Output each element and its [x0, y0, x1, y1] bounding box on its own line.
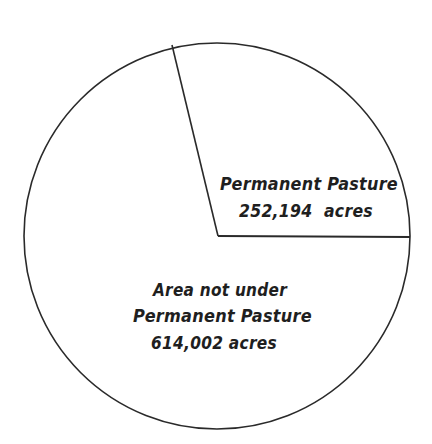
- pie-chart: Permanent Pasture 252,194 acres Area not…: [0, 0, 432, 444]
- slice-label-line: Permanent Pasture: [220, 174, 398, 194]
- pie-chart-svg: Permanent Pasture 252,194 acres Area not…: [0, 0, 432, 444]
- slice-value-line: 614,002 acres: [151, 332, 277, 353]
- slice-label-not-permanent-pasture: Area not under Permanent Pasture 614,002…: [133, 279, 312, 353]
- slice-label-permanent-pasture: Permanent Pasture 252,194 acres: [220, 174, 398, 221]
- slice-value-line: 252,194 acres: [239, 201, 373, 221]
- slice-label-line: Permanent Pasture: [133, 305, 312, 326]
- slice-label-line: Area not under: [151, 279, 287, 300]
- slice-divider-top: [172, 45, 218, 236]
- slice-divider-right: [218, 236, 410, 237]
